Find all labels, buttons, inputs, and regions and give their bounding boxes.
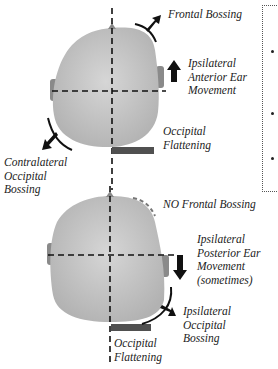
label-no-frontal-bossing: NO Frontal Bossing bbox=[163, 198, 256, 212]
bottom-head bbox=[47, 186, 187, 362]
label-line: Anterior Ear bbox=[188, 71, 247, 85]
label-line: Posterior Ear bbox=[197, 247, 261, 261]
label-occipital-flattening-bottom: Occipital Flattening bbox=[114, 337, 162, 364]
occipital-flattening-bar bbox=[112, 147, 154, 154]
label-line: Ipsilateral bbox=[183, 305, 231, 319]
label-line: (sometimes) bbox=[197, 274, 261, 288]
label-line: Movement bbox=[197, 260, 261, 274]
label-frontal-bossing: Frontal Bossing bbox=[168, 8, 242, 22]
label-line: Ipsilateral bbox=[188, 57, 247, 71]
label-line: Occipital bbox=[163, 125, 211, 139]
bullet-icon bbox=[271, 50, 274, 53]
side-panel-dotted-box bbox=[262, 5, 278, 192]
label-ipsilateral-posterior-ear: Ipsilateral Posterior Ear Movement (some… bbox=[197, 233, 261, 287]
bullet-icon bbox=[271, 157, 274, 160]
label-occipital-flattening-top: Occipital Flattening bbox=[163, 125, 211, 152]
label-contralateral-occipital-bossing: Contralateral Occipital Bossing bbox=[4, 156, 67, 197]
label-line: Bossing bbox=[183, 332, 231, 346]
label-line: Occipital bbox=[183, 319, 231, 333]
label-line: Flattening bbox=[114, 351, 162, 365]
bullet-icon bbox=[271, 112, 274, 115]
label-line: Ipsilateral bbox=[197, 233, 261, 247]
label-line: Contralateral bbox=[4, 156, 67, 170]
label-line: Bossing bbox=[4, 183, 67, 197]
label-line: Flattening bbox=[163, 139, 211, 153]
label-line: Occipital bbox=[4, 170, 67, 184]
label-ipsilateral-occipital-bossing: Ipsilateral Occipital Bossing bbox=[183, 305, 231, 346]
label-line: Occipital bbox=[114, 337, 162, 351]
label-ipsilateral-anterior-ear: Ipsilateral Anterior Ear Movement bbox=[188, 57, 247, 98]
label-line: Movement bbox=[188, 84, 247, 98]
